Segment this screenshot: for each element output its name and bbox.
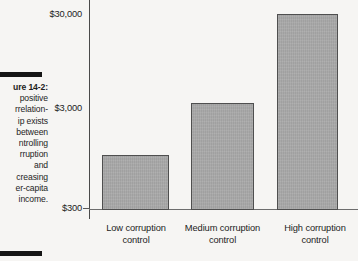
x-axis-label-high-line1: High corruption — [272, 223, 358, 235]
y-axis-label-300: $300 — [24, 203, 82, 213]
y-axis-tick-300 — [83, 208, 90, 209]
y-axis-line — [89, 0, 90, 219]
bar-low-corruption-control[interactable] — [102, 155, 169, 210]
y-axis-labels: $30,000 $3,000 $300 — [20, 0, 82, 219]
y-axis-label-3000: $3,000 — [24, 103, 82, 113]
x-axis-label-medium-line1: Medium corruption — [169, 223, 276, 235]
x-axis-label-medium: Medium corruption control — [169, 223, 276, 246]
y-axis-label-30000: $30,000 — [24, 9, 82, 19]
bar-high-corruption-control[interactable] — [277, 14, 338, 210]
bar-chart: $30,000 $3,000 $300 Low corruption contr… — [0, 0, 358, 261]
x-axis-label-high: High corruption control — [272, 223, 358, 246]
bar-medium-corruption-control[interactable] — [191, 103, 254, 210]
x-axis-label-medium-line2: control — [169, 235, 276, 247]
x-axis-label-high-line2: control — [272, 235, 358, 247]
scanned-page-surface: ure 14-2: positive rrelation- ip exists … — [0, 0, 358, 261]
